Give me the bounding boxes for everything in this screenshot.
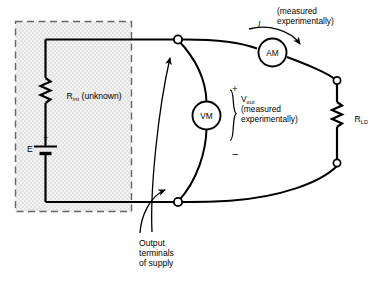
vout-brace [231, 90, 237, 140]
load-resistor-symbol-text: R [355, 114, 361, 124]
load-bottom-node[interactable] [333, 159, 340, 166]
load-resistor-label: RLD [345, 104, 368, 134]
load-resistor-subscript: LD [361, 119, 368, 125]
wire-terminal-to-ammeter [178, 39, 257, 48]
vout-minus-sign: − [232, 148, 238, 161]
output-caption-line1: Output [139, 238, 165, 248]
vout-subscript: out [247, 99, 255, 105]
internal-resistor-note: (unknown) [79, 91, 122, 101]
current-symbol-label: I [258, 19, 260, 29]
output-terminals-caption: Outputterminalsof supply [139, 238, 174, 268]
vout-note-line1: (measured [241, 104, 281, 114]
emf-polarity-plus: + [43, 133, 48, 144]
current-annotation: (measuredexperimentally) [277, 7, 334, 27]
vout-plus-sign: + [232, 83, 238, 94]
internal-resistor-symbol-text: R [67, 91, 73, 101]
supply-enclosure-shade [16, 22, 132, 212]
emf-label: E [27, 144, 33, 154]
load-resistor-symbol [332, 102, 342, 127]
ammeter-label: AM [266, 49, 278, 58]
output-terminal-bottom[interactable] [174, 198, 182, 206]
leader-to-top-terminal [152, 58, 170, 232]
wire-load-return [178, 166, 337, 202]
vout-annotation: Vout(measuredexperimentally) [241, 95, 298, 125]
output-terminal-top[interactable] [174, 35, 182, 43]
output-caption-line2: terminals [139, 248, 174, 258]
voltmeter-label: VM [200, 112, 212, 121]
wire-voltmeter-upper [178, 40, 207, 102]
load-top-node[interactable] [333, 77, 340, 84]
circuit-schematic-canvas: VM AM [0, 0, 372, 284]
circuit-diagram: VM AM Rint (unknown) E RLD + − Vout(meas [0, 0, 372, 284]
vout-note-line2: experimentally) [241, 114, 298, 124]
output-caption-line3: of supply [139, 258, 173, 268]
current-note-line2: experimentally) [277, 16, 334, 26]
vout-symbol-text: V [241, 94, 247, 104]
current-note-line1: (measured [277, 6, 317, 16]
wire-ammeter-to-load [287, 57, 337, 81]
wire-voltmeter-lower [178, 129, 207, 202]
internal-resistor-subscript: int [73, 96, 79, 102]
internal-resistor-label: Rint (unknown) [57, 81, 122, 111]
